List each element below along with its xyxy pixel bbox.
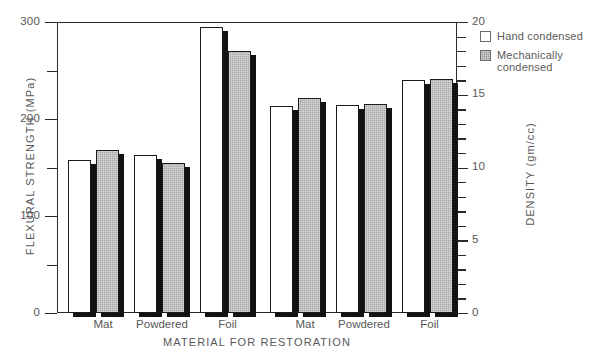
bar-flexural-mat-hand[interactable] [68, 160, 91, 313]
y-axis-left-tick-300 [45, 22, 57, 23]
bar-face [96, 150, 119, 313]
legend-label-mechanically-condensed: Mechanically condensed [497, 49, 563, 73]
y-axis-right-tick-18 [457, 51, 466, 52]
x-axis-category-flexural-powdered: Powdered [132, 318, 192, 330]
bars-container [57, 22, 457, 313]
y-axis-right-tick-label-10: 10 [472, 160, 485, 172]
legend-label-line-1: Mechanically [497, 49, 563, 61]
y-axis-left-tick-50 [47, 265, 57, 266]
chart-figure: 300 200 100 0 20 15 10 5 0 [0, 0, 591, 357]
y-axis-left-tick-100 [45, 216, 57, 217]
y-axis-left-tick-250 [47, 71, 57, 72]
x-axis-category-flexural-foil: Foil [205, 318, 250, 330]
legend-label-line-2: condensed [497, 61, 563, 73]
bar-face [430, 79, 453, 313]
y-axis-right-tick-2 [457, 284, 466, 285]
bar-flexural-mat-mech[interactable] [96, 150, 119, 313]
y-axis-right-tick-label-15: 15 [472, 87, 485, 99]
y-axis-right-tick-label-0: 0 [472, 306, 479, 318]
bar-density-foil-hand[interactable] [402, 80, 425, 313]
y-axis-right-tick-4 [457, 255, 466, 256]
y-axis-right-tick-12 [457, 138, 466, 139]
bar-face [364, 104, 387, 314]
y-axis-right-tick-1 [457, 298, 466, 299]
bar-density-mat-hand[interactable] [270, 106, 293, 313]
y-axis-right-tick-label-20: 20 [472, 15, 485, 27]
y-axis-right-tick-5 [457, 240, 468, 241]
bar-flexural-foil-mech[interactable] [228, 51, 251, 313]
bar-face [336, 105, 359, 313]
y-axis-right-tick-8 [457, 197, 466, 198]
y-axis-left-tick-150 [47, 168, 57, 169]
x-axis-category-density-mat: Mat [280, 318, 330, 330]
bar-face [270, 106, 293, 313]
y-axis-left-tick-label-300: 300 [0, 15, 40, 27]
x-axis-category-flexural-mat: Mat [78, 318, 128, 330]
y-axis-right-tick-16 [457, 80, 466, 81]
y-axis-right-tick-label-5: 5 [472, 233, 479, 245]
bar-face [68, 160, 91, 313]
bar-face [162, 163, 185, 313]
bar-density-mat-mech[interactable] [298, 98, 321, 313]
x-axis-category-density-powdered: Powdered [334, 318, 394, 330]
y-axis-right-tick-15 [457, 95, 468, 96]
bar-flexural-powdered-mech[interactable] [162, 163, 185, 313]
legend-swatch-hand-condensed-icon [480, 31, 491, 42]
y-axis-left-tick-200 [45, 119, 57, 120]
bar-face [298, 98, 321, 313]
y-axis-right-tick-13 [457, 124, 466, 125]
y-axis-right-tick-0 [457, 313, 468, 314]
y-axis-left-title: FLEXURAL STRENGTH (MPa) [24, 66, 36, 266]
bar-face [200, 27, 223, 313]
y-axis-right-tick-10 [457, 168, 468, 169]
x-axis-title: MATERIAL FOR RESTORATION [57, 336, 457, 348]
bar-face [134, 155, 157, 313]
legend-item-mechanically-condensed[interactable]: Mechanically condensed [480, 49, 590, 73]
legend-swatch-mechanically-condensed-icon [480, 50, 491, 61]
y-axis-left-tick-label-0: 0 [0, 306, 40, 318]
bar-flexural-foil-hand[interactable] [200, 27, 223, 313]
y-axis-right-tick-3 [457, 269, 466, 270]
bar-density-powdered-mech[interactable] [364, 104, 387, 314]
y-axis-right-tick-6 [457, 226, 466, 227]
y-axis-right-tick-9 [457, 182, 466, 183]
y-axis-right-tick-14 [457, 109, 466, 110]
y-axis-right-tick-11 [457, 153, 466, 154]
bar-density-powdered-hand[interactable] [336, 105, 359, 313]
bar-face [228, 51, 251, 313]
legend-item-hand-condensed[interactable]: Hand condensed [480, 30, 590, 42]
bar-density-foil-mech[interactable] [430, 79, 453, 313]
bar-face [402, 80, 425, 313]
y-axis-left-tick-0 [45, 313, 57, 314]
y-axis-right-tick-20 [457, 22, 468, 23]
legend: Hand condensed Mechanically condensed [480, 30, 590, 80]
y-axis-right-tick-7 [457, 211, 466, 212]
y-axis-right-tick-17 [457, 66, 466, 67]
y-axis-right-tick-19 [457, 37, 466, 38]
y-axis-right-title: DENSITY (gm/cc) [524, 74, 536, 274]
legend-label-hand-condensed: Hand condensed [497, 30, 583, 42]
bar-flexural-powdered-hand[interactable] [134, 155, 157, 313]
x-axis-category-density-foil: Foil [407, 318, 452, 330]
